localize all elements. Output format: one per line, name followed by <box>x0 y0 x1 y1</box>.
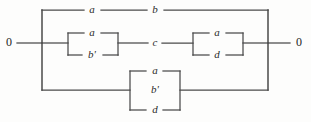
contact-label-top-a: a <box>89 3 95 15</box>
contact-label-mid-right-a: a <box>214 26 220 38</box>
contact-label-top-b: b <box>152 3 158 15</box>
contact-label-bottom-a: a <box>152 64 158 76</box>
contact-label-bottom-bprime: b' <box>151 83 160 95</box>
circuit-diagram: 0 0 a b a b' c a d a b' d <box>0 0 311 122</box>
contact-label-mid-c: c <box>153 36 158 48</box>
contact-label-bottom-d: d <box>152 103 158 115</box>
right-terminal-label: 0 <box>296 35 302 49</box>
left-terminal-label: 0 <box>6 35 12 49</box>
contact-label-mid-right-d: d <box>214 48 220 60</box>
contact-label-mid-left-bprime: b' <box>88 48 97 60</box>
figure-container: 0 0 a b a b' c a d a b' d <box>0 0 311 122</box>
contact-label-mid-left-a: a <box>89 26 95 38</box>
